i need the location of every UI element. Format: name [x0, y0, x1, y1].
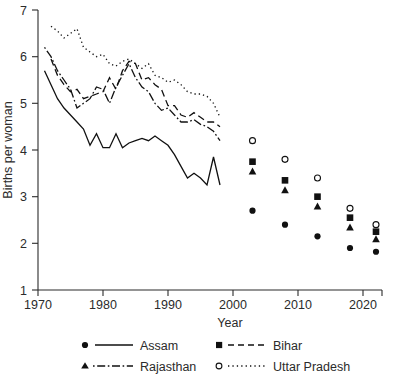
series-layer: [45, 26, 380, 254]
series-line-uttar-pradesh: [51, 26, 220, 117]
legend-entry-rajasthan[interactable]: Rajasthan: [81, 360, 196, 374]
legend-entry-assam[interactable]: Assam: [82, 339, 178, 353]
figure-container: 1 2 3 4 5 6 7 1970 1980 1990 2000 2010: [0, 0, 396, 387]
y-tick-label-6: 6: [20, 50, 27, 64]
x-axis-title: Year: [217, 316, 242, 330]
datapoint-assam-2013: [314, 233, 320, 239]
series-assam: [45, 71, 380, 255]
series-rajasthan: [45, 47, 380, 242]
x-tick-label-1980: 1980: [89, 298, 117, 312]
y-tick-label-5: 5: [20, 97, 27, 111]
axis-group: 1 2 3 4 5 6 7 1970 1980 1990 2000 2010: [1, 4, 382, 331]
datapoint-uttar-pradesh-2018: [347, 205, 353, 211]
datapoint-assam-2008: [282, 222, 288, 228]
datapoint-bihar-2008: [282, 177, 289, 184]
x-tick-label-1970: 1970: [24, 298, 52, 312]
x-tick-label-2010: 2010: [284, 298, 312, 312]
series-uttar-pradesh: [51, 26, 379, 227]
datapoint-rajasthan-2022: [372, 235, 380, 242]
datapoint-uttar-pradesh-2013: [315, 175, 321, 181]
datapoint-rajasthan-2013: [314, 203, 322, 210]
y-tick-label-2: 2: [20, 237, 27, 251]
datapoint-bihar-2003: [249, 158, 256, 165]
series-bihar: [51, 59, 379, 235]
legend-label-assam: Assam: [140, 339, 178, 353]
y-tick-label-4: 4: [20, 144, 27, 158]
legend-entry-bihar[interactable]: Bihar: [216, 339, 302, 353]
legend-label-rajasthan: Rajasthan: [140, 360, 196, 374]
series-line-rajasthan: [45, 47, 221, 140]
series-line-bihar: [51, 59, 220, 127]
y-axis-title: Births per woman: [1, 101, 15, 198]
datapoint-rajasthan-2018: [346, 224, 354, 231]
x-ticks: [38, 290, 382, 296]
datapoint-bihar-2022: [373, 228, 380, 235]
fertility-line-chart: 1 2 3 4 5 6 7 1970 1980 1990 2000 2010: [0, 0, 396, 387]
y-tick-label-3: 3: [20, 190, 27, 204]
datapoint-rajasthan-2003: [249, 168, 257, 175]
series-line-assam: [45, 71, 221, 185]
x-tick-label-1990: 1990: [154, 298, 182, 312]
y-tick-label-7: 7: [20, 4, 27, 18]
legend-marker-filled-square: [216, 342, 222, 348]
x-tick-label-2020: 2020: [349, 298, 377, 312]
datapoint-bihar-2013: [314, 193, 321, 200]
datapoint-uttar-pradesh-2003: [250, 138, 256, 144]
datapoint-rajasthan-2008: [281, 186, 289, 193]
legend: Assam Bihar Rajasthan Uttar Pradesh: [81, 339, 350, 374]
legend-marker-filled-circle: [82, 342, 88, 348]
datapoint-uttar-pradesh-2008: [282, 156, 288, 162]
legend-marker-open-circle: [216, 363, 222, 369]
datapoint-assam-2018: [347, 245, 353, 251]
legend-entry-uttar-pradesh[interactable]: Uttar Pradesh: [216, 360, 350, 374]
datapoint-uttar-pradesh-2022: [373, 222, 379, 228]
legend-marker-filled-triangle: [81, 362, 89, 368]
datapoint-bihar-2018: [347, 214, 354, 221]
datapoint-assam-2022: [373, 249, 379, 255]
legend-label-bihar: Bihar: [273, 339, 302, 353]
x-tick-label-2000: 2000: [219, 298, 247, 312]
legend-label-uttar-pradesh: Uttar Pradesh: [273, 360, 350, 374]
datapoint-assam-2003: [249, 208, 255, 214]
y-ticks: [32, 10, 38, 290]
y-tick-label-1: 1: [20, 284, 27, 298]
